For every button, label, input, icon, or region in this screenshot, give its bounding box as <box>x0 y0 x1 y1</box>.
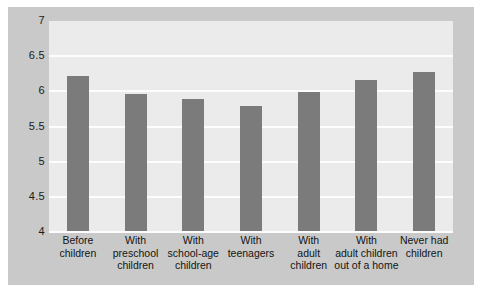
x-axis-labels: BeforechildrenWithpreschoolchildrenWiths… <box>49 234 453 284</box>
gridline <box>49 90 453 92</box>
bar <box>413 72 435 232</box>
bar <box>182 99 204 232</box>
y-tick-label: 7 <box>1 15 45 26</box>
x-tick-label-line: Never had <box>389 234 459 247</box>
gridline <box>49 55 453 57</box>
x-tick-label-line: out of a home <box>332 259 402 272</box>
y-axis: 76.565.554.54 <box>0 0 45 293</box>
y-tick-label: 6.5 <box>1 50 45 61</box>
y-tick-label: 5 <box>1 156 45 167</box>
bar <box>67 76 89 232</box>
bar <box>355 80 377 232</box>
plot-area <box>49 21 453 232</box>
y-tick-label: 5.5 <box>1 121 45 132</box>
bar <box>240 106 262 232</box>
x-tick-label: Never hadchildren <box>389 234 459 259</box>
y-tick-label: 4.5 <box>1 191 45 202</box>
y-tick-label: 6 <box>1 85 45 96</box>
bar <box>298 92 320 232</box>
x-tick-label-line: children <box>389 247 459 260</box>
chart-figure: 76.565.554.54 BeforechildrenWithpreschoo… <box>0 0 483 293</box>
x-axis-baseline <box>49 231 453 233</box>
y-tick-label: 4 <box>1 226 45 237</box>
bar <box>125 94 147 232</box>
x-tick-label-line: children <box>158 259 228 272</box>
